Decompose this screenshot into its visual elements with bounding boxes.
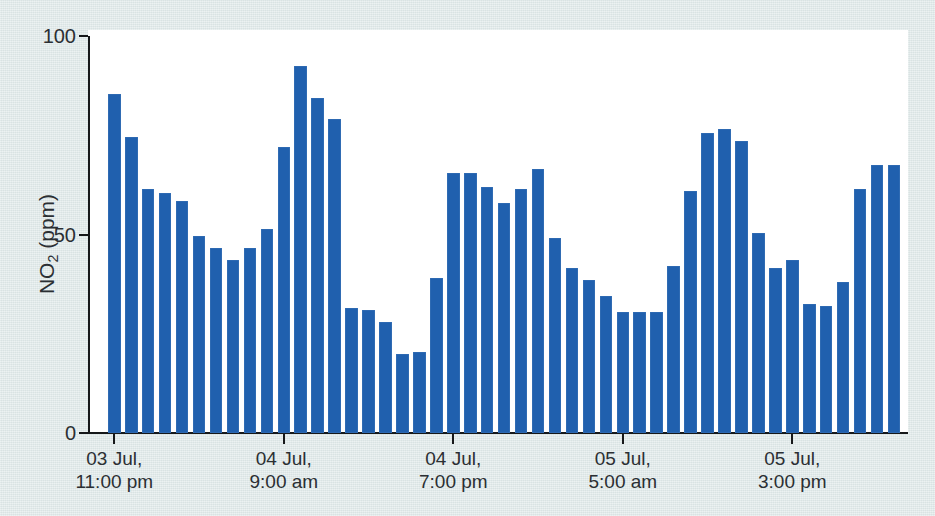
bar [854,189,867,433]
bar [752,233,765,433]
bar [820,306,833,433]
bar [108,94,121,433]
bar [193,236,206,433]
bar [362,310,375,433]
bar [837,282,850,433]
bar [549,238,562,433]
bars-series [0,0,935,516]
bar [294,66,307,433]
bar [633,312,646,433]
bar [515,189,528,433]
bar [430,278,443,433]
bar [667,266,680,433]
bar [413,352,426,433]
bar [345,308,358,433]
bar [464,173,477,433]
bar [786,260,799,433]
bar [261,229,274,433]
bar [278,147,291,433]
bar [379,322,392,433]
bar [244,248,257,433]
chart-page: NO2 (ppm) 050100 03 Jul,11:00 pm04 Jul,9… [0,0,935,516]
bar [583,280,596,433]
bar [566,268,579,433]
bar [125,137,138,433]
bar [498,203,511,433]
bar [481,187,494,433]
bar [888,165,901,433]
bar [769,268,782,433]
bar [328,119,341,433]
bar [176,201,189,433]
bar [159,193,172,433]
bar [600,296,613,433]
bar [396,354,409,433]
bar [210,248,223,433]
bar [650,312,663,433]
bar [142,189,155,433]
bar [311,98,324,433]
bar [447,173,460,433]
bar [803,304,816,433]
bar [735,141,748,433]
bar [684,191,697,433]
bar [701,133,714,433]
bar [227,260,240,433]
bar [532,169,545,433]
bar [718,129,731,433]
bar [871,165,884,433]
bar [617,312,630,433]
